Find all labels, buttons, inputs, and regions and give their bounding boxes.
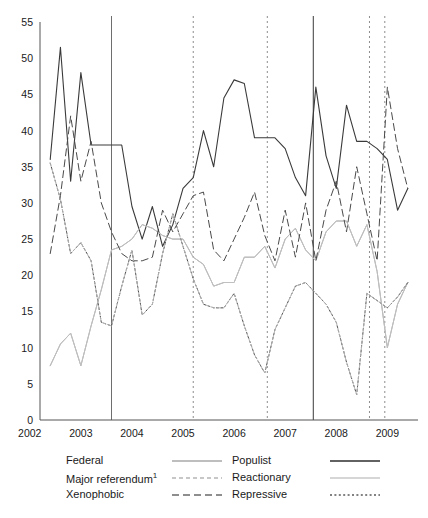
- chart-legend: Federal Major referendum1 Xenophobic Pop…: [0, 452, 428, 518]
- y-tick-25: 25: [21, 233, 33, 245]
- x-axis-tick-labels: 20022003200420052006200720082009: [18, 427, 399, 439]
- x-tick-2002: 2002: [18, 427, 42, 439]
- y-tick-0: 0: [27, 414, 33, 426]
- legend-label-xenophobic: Xenophobic: [66, 486, 170, 503]
- legend-column-left: Federal Major referendum1 Xenophobic: [66, 452, 224, 503]
- y-tick-45: 45: [21, 88, 33, 100]
- y-tick-30: 30: [21, 197, 33, 209]
- chart-axes: [40, 22, 418, 420]
- legend-label-major-referendum-text: Major referendum: [66, 473, 153, 485]
- data-series-lines: [50, 47, 408, 394]
- series-line-reactionary: [50, 221, 408, 366]
- series-line-xenophobic: [50, 87, 408, 261]
- x-tick-2005: 2005: [171, 427, 195, 439]
- legend-swatch-xenophobic: [170, 489, 224, 501]
- series-line-populist: [50, 47, 408, 246]
- legend-item-populist[interactable]: Populist: [232, 452, 382, 469]
- chart-figure: 0510152025303540455055 20022003200420052…: [0, 0, 428, 518]
- y-tick-10: 10: [21, 342, 33, 354]
- y-tick-40: 40: [21, 125, 33, 137]
- y-axis-tick-labels: 0510152025303540455055: [21, 16, 33, 426]
- x-tick-2009: 2009: [376, 427, 400, 439]
- reference-vertical-lines: [112, 16, 385, 420]
- x-tick-2004: 2004: [120, 427, 144, 439]
- legend-label-repressive: Repressive: [232, 486, 328, 503]
- legend-swatch-federal: [170, 455, 224, 467]
- legend-swatch-major-referendum: [170, 472, 224, 484]
- legend-item-repressive[interactable]: Repressive: [232, 486, 382, 503]
- x-tick-2006: 2006: [222, 427, 246, 439]
- y-tick-35: 35: [21, 161, 33, 173]
- legend-swatch-repressive: [328, 489, 382, 501]
- legend-swatch-reactionary: [328, 472, 382, 484]
- y-tick-50: 50: [21, 52, 33, 64]
- x-tick-2007: 2007: [274, 427, 298, 439]
- x-tick-2008: 2008: [325, 427, 349, 439]
- y-tick-55: 55: [21, 16, 33, 28]
- legend-item-reactionary[interactable]: Reactionary: [232, 469, 382, 486]
- legend-item-xenophobic[interactable]: Xenophobic: [66, 486, 224, 503]
- y-tick-15: 15: [21, 305, 33, 317]
- legend-footnote-marker: 1: [153, 471, 157, 480]
- line-chart-canvas: 0510152025303540455055 20022003200420052…: [0, 0, 428, 450]
- legend-swatch-populist: [328, 455, 382, 467]
- legend-label-populist: Populist: [232, 452, 328, 469]
- legend-item-major-referendum[interactable]: Major referendum1: [66, 469, 224, 486]
- legend-label-major-referendum: Major referendum1: [66, 467, 170, 488]
- y-tick-20: 20: [21, 269, 33, 281]
- legend-label-reactionary: Reactionary: [232, 469, 328, 486]
- x-tick-2003: 2003: [69, 427, 93, 439]
- legend-column-right: Populist Reactionary Repressive: [232, 452, 382, 503]
- series-line-federal: [50, 221, 408, 366]
- y-tick-5: 5: [27, 378, 33, 390]
